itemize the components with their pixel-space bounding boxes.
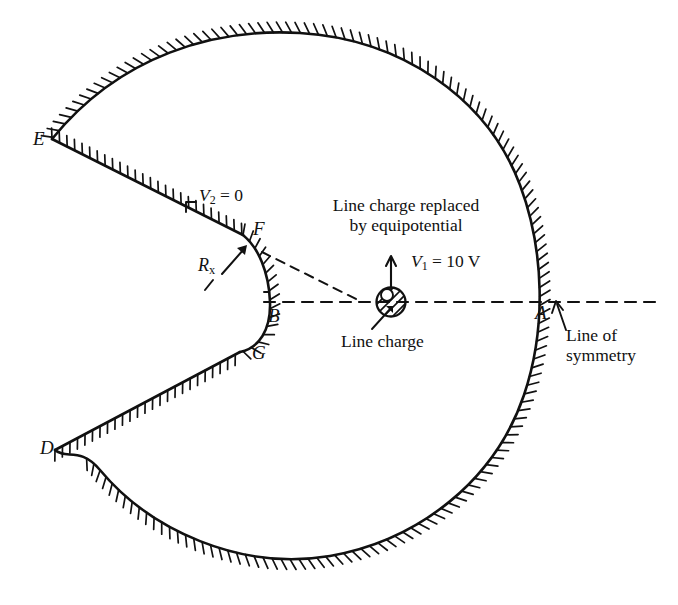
v1-relation: =	[428, 251, 447, 271]
rx-radius-label: Rx	[198, 255, 215, 278]
line-charge-caption: Line charge	[341, 332, 424, 352]
point-label-G: G	[252, 342, 266, 363]
v2-value: 0	[234, 185, 243, 205]
rx-symbol: R	[198, 255, 209, 275]
v1-symbol: V	[411, 251, 422, 271]
rx-subscript: x	[209, 263, 215, 277]
equipotential-note-line2: by equipotential	[300, 216, 512, 236]
point-label-F: F	[253, 218, 265, 239]
line-of-symmetry-line1: Line of	[566, 326, 636, 346]
equipotential-note: Line charge replaced by equipotential	[300, 196, 512, 235]
line-of-symmetry-caption: Line of symmetry	[566, 326, 636, 365]
line-of-symmetry-leader	[552, 301, 566, 330]
line-of-symmetry-line2: symmetry	[566, 346, 636, 366]
v2-relation: =	[216, 185, 235, 205]
conductor-diagram-svg	[0, 0, 678, 605]
equipotential-arrow-up	[386, 256, 396, 288]
equipotential-note-line1: Line charge replaced	[300, 196, 512, 216]
v2-potential-label: V2 = 0	[199, 186, 243, 208]
point-label-A: A	[535, 302, 547, 323]
point-label-E: E	[33, 128, 45, 149]
v1-potential-label: V1 = 10 V	[411, 252, 480, 274]
outer-conductor-arc	[52, 32, 540, 559]
v1-value: 10 V	[446, 251, 480, 271]
v2-symbol: V	[199, 185, 210, 205]
point-label-D: D	[40, 437, 54, 458]
figure-root: E D F B G A V2 = 0 V1 = 10 V Rx Line cha…	[0, 0, 678, 605]
point-label-B: B	[268, 305, 280, 326]
